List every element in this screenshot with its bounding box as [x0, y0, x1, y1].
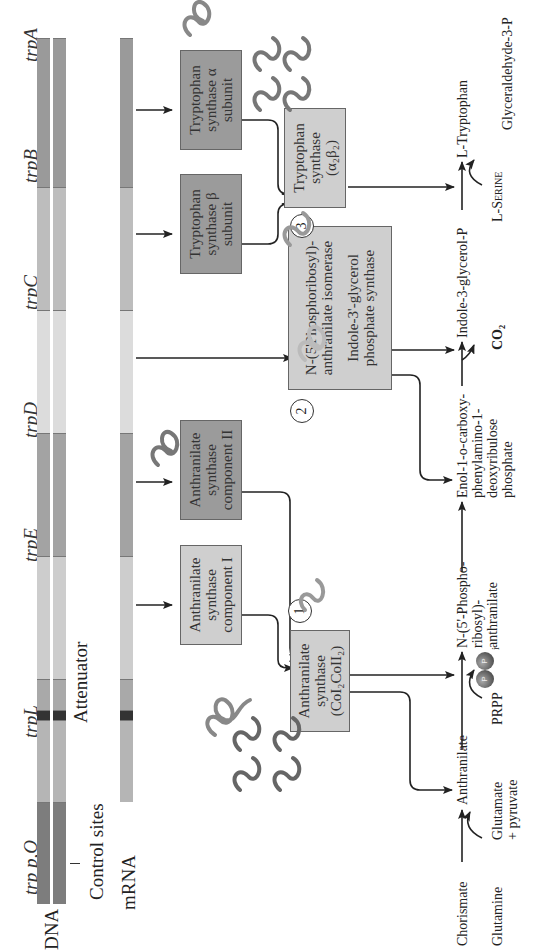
metabolite-pra: N-(5'-Phospho- ribosyl)- anthranilate	[455, 561, 500, 648]
protein-blob-icon	[235, 718, 300, 790]
reactant-l-serine: L-Serine	[490, 172, 505, 222]
reactant-glutamine: Glutamine	[490, 887, 505, 946]
protein-blob-icon	[255, 38, 310, 110]
product-co2: CO₂	[490, 325, 505, 350]
reactant-prpp: PRPP	[490, 692, 505, 725]
metabolite-anthranilate: Anthranilate	[455, 735, 470, 805]
metabolite-indole-3-glycerol-p: Indole-3-glycerol-P	[455, 228, 470, 338]
ppi-phosphate-icon: P	[476, 652, 494, 670]
protein-blob-icon	[153, 432, 178, 465]
metabolite-chorismate: Chorismate	[455, 881, 470, 946]
metabolite-cdrp: Enol-1-o-carboxy- phenylamino-1- deoxyri…	[455, 394, 515, 498]
protein-blob-icon	[285, 213, 310, 245]
product-glutamate-pyruvate: Glutamate + pyruvate	[490, 780, 520, 840]
ppi-phosphate-icon: P	[476, 670, 494, 688]
protein-blob-icon	[300, 327, 325, 360]
trp-operon-diagram: trp p,O trpL trpE trpD trpC trpB trpA DN…	[0, 0, 552, 950]
protein-blob-icon	[185, 2, 210, 35]
protein-blob-icon	[207, 699, 250, 735]
protein-blob-icon	[301, 580, 323, 610]
metabolite-l-tryptophan: L-Tryptophan	[455, 80, 470, 158]
product-glyceraldehyde-3-p: Glyceraldehyde-3-P	[500, 17, 515, 130]
ppi-subscript: i	[488, 647, 503, 650]
